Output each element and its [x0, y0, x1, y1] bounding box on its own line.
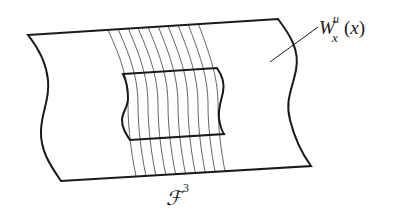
foliation-symbol: ℱ: [166, 187, 182, 209]
label-superscript: u: [333, 13, 339, 25]
unstable-manifold-label: W u x (x): [319, 18, 335, 37]
label-pointer-line: [270, 27, 318, 62]
label-argument-group: (x): [344, 18, 365, 37]
foliation-label: ℱ 3: [166, 188, 182, 208]
foliation-leaves: [108, 23, 228, 185]
paren-close: ): [359, 17, 365, 38]
label-argument: x: [350, 17, 358, 38]
leaf-line: [108, 30, 138, 185]
outer-sheet: [28, 19, 311, 181]
label-subscript: x: [332, 31, 338, 44]
foliation-superscript: 3: [183, 182, 189, 194]
